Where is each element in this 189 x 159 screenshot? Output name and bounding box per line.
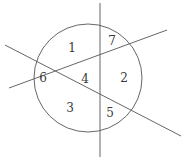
- region-label-3: 3: [66, 102, 74, 114]
- region-label-5: 5: [106, 107, 114, 119]
- region-label-7: 7: [108, 35, 116, 47]
- geometry-diagram: 1 7 6 4 2 3 5: [0, 0, 189, 159]
- region-label-6: 6: [39, 72, 47, 84]
- region-label-4: 4: [81, 73, 89, 85]
- descending-secant-line: [5, 45, 181, 136]
- region-label-2: 2: [120, 72, 128, 84]
- figure-canvas: [0, 0, 189, 159]
- region-label-1: 1: [68, 42, 76, 54]
